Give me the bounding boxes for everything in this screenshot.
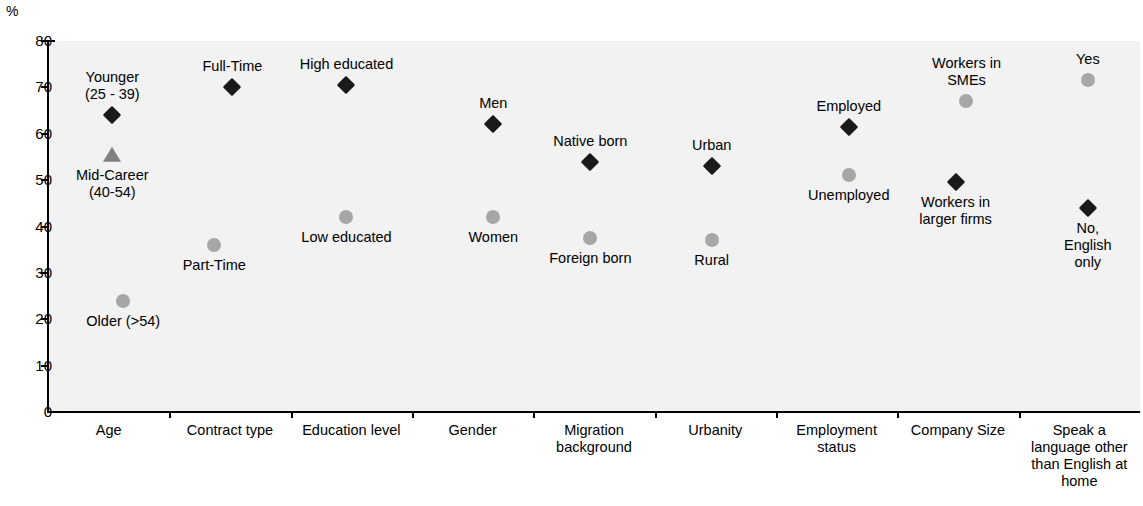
x-axis-tick — [897, 412, 899, 418]
x-axis-tick — [412, 412, 414, 418]
data-point-label: Workers in larger firms — [919, 194, 992, 228]
data-point-label: Foreign born — [549, 250, 631, 267]
data-point-label: Mid-Career (40-54) — [76, 167, 149, 201]
data-point-label: Urban — [692, 137, 732, 154]
y-axis-tick-label: 40 — [12, 219, 52, 234]
x-axis-category-label: Company Size — [897, 422, 1018, 439]
chart-container: % 80706050403020100 AgeContract typeEduc… — [0, 0, 1143, 506]
data-point-circle-marker — [1081, 73, 1095, 87]
data-point-label: Older (>54) — [86, 313, 160, 330]
data-point-label: High educated — [300, 56, 394, 73]
y-axis-tick-label: 20 — [12, 311, 52, 326]
x-axis-category-label: Gender — [412, 422, 533, 439]
data-point-circle-marker — [705, 233, 719, 247]
x-axis-tick — [1019, 412, 1021, 418]
x-axis-category-label: Contract type — [169, 422, 290, 439]
data-point-label: Native born — [553, 133, 627, 150]
y-axis-tick-label: 10 — [12, 358, 52, 373]
data-point-label: Men — [479, 95, 507, 112]
y-axis-tick-label: 0 — [12, 404, 52, 419]
data-point-circle-marker — [116, 294, 130, 308]
data-point-circle-marker — [842, 168, 856, 182]
data-point-circle-marker — [339, 210, 353, 224]
x-axis-category-label: Age — [48, 422, 169, 439]
data-point-label: Rural — [694, 252, 729, 269]
data-point-label: Women — [468, 229, 518, 246]
x-axis-tick — [655, 412, 657, 418]
x-axis-category-label: Urbanity — [655, 422, 776, 439]
x-axis-category-label: Education level — [291, 422, 412, 439]
data-point-label: Workers in SMEs — [932, 55, 1001, 89]
x-axis-tick — [169, 412, 171, 418]
data-point-label: No, English only — [1060, 220, 1115, 271]
data-point-label: Employed — [817, 98, 881, 115]
data-point-label: Low educated — [301, 229, 391, 246]
x-axis-tick — [291, 412, 293, 418]
data-point-label: Younger (25 - 39) — [85, 69, 140, 103]
x-axis-category-label: Migration background — [533, 422, 654, 456]
data-point-label: Unemployed — [808, 187, 889, 204]
data-point-circle-marker — [486, 210, 500, 224]
y-axis-unit-label: % — [6, 4, 18, 18]
y-axis-tick-label: 60 — [12, 126, 52, 141]
x-axis-line — [47, 411, 1140, 413]
data-point-label: Yes — [1076, 51, 1100, 68]
data-point-circle-marker — [959, 94, 973, 108]
x-axis-tick — [776, 412, 778, 418]
data-point-circle-marker — [583, 231, 597, 245]
data-point-label: Part-Time — [183, 257, 246, 274]
y-axis-tick-label: 50 — [12, 172, 52, 187]
y-axis-tick-label: 80 — [12, 33, 52, 48]
data-point-circle-marker — [207, 238, 221, 252]
y-axis-tick-label: 30 — [12, 265, 52, 280]
x-axis-category-label: Speak a language other than English at h… — [1019, 422, 1140, 490]
y-axis-tick-label: 70 — [12, 79, 52, 94]
data-point-triangle-marker — [103, 146, 121, 161]
x-axis-tick — [533, 412, 535, 418]
x-axis-category-label: Employment status — [776, 422, 897, 456]
data-point-label: Full-Time — [202, 58, 262, 75]
